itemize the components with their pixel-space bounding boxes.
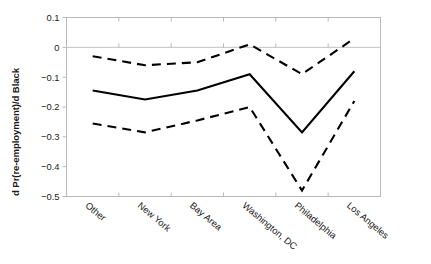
- chart-container: d Pr(re-employment)/d Black 0.10−0.1−0.2…: [0, 0, 431, 264]
- chart-plot: 0.10−0.1−0.2−0.3−0.4−0.5 OtherNew YorkBa…: [0, 0, 431, 264]
- y-axis-tick-labels: 0.10−0.1−0.2−0.3−0.4−0.5: [41, 12, 60, 202]
- y-tick-label: 0: [54, 42, 59, 53]
- x-axis-tick-marks: [119, 18, 328, 197]
- data-series-group: [93, 38, 355, 190]
- x-axis-category-labels: OtherNew YorkBay AreaWashington, DCPhila…: [83, 200, 391, 252]
- x-category-label: Los Angeles: [345, 200, 391, 241]
- x-category-label: New York: [136, 200, 174, 234]
- y-axis-tick-marks: [63, 18, 67, 197]
- y-tick-label: 0.1: [46, 12, 59, 23]
- y-tick-label: −0.1: [41, 72, 60, 83]
- x-category-label: Other: [83, 200, 108, 224]
- series-line: [93, 101, 355, 191]
- x-category-label: Washington, DC: [240, 200, 299, 252]
- y-tick-label: −0.3: [41, 131, 60, 142]
- series-line: [93, 71, 355, 132]
- x-category-label: Bay Area: [188, 200, 225, 233]
- y-tick-label: −0.2: [41, 101, 60, 112]
- y-tick-label: −0.4: [41, 161, 60, 172]
- y-tick-label: −0.5: [41, 191, 60, 202]
- x-category-label: Philadelphia: [293, 200, 340, 242]
